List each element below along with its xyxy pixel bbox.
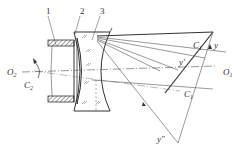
label-o1: O1	[223, 67, 233, 78]
label-c1-upper: C1	[193, 40, 202, 51]
y-double-prime-arrow-icon	[142, 102, 146, 106]
label-c1-lower: C1	[184, 89, 193, 100]
label-part-1: 1	[46, 6, 51, 16]
rotation-arrow-c2	[33, 58, 39, 78]
label-part-3: 3	[100, 6, 105, 16]
label-c2: C2	[24, 80, 33, 91]
label-y-prime: y′	[178, 57, 186, 67]
label-o2: O2	[7, 67, 17, 78]
label-part-2: 2	[80, 6, 85, 16]
label-y: y	[213, 40, 218, 50]
optical-diagram: 1 2 3 O2 C2 O1 C1 C1 y y′ y″	[0, 0, 240, 154]
label-y-double-prime: y″	[156, 134, 165, 144]
rotation-arrowhead-icon	[33, 58, 37, 64]
rays	[92, 32, 226, 143]
